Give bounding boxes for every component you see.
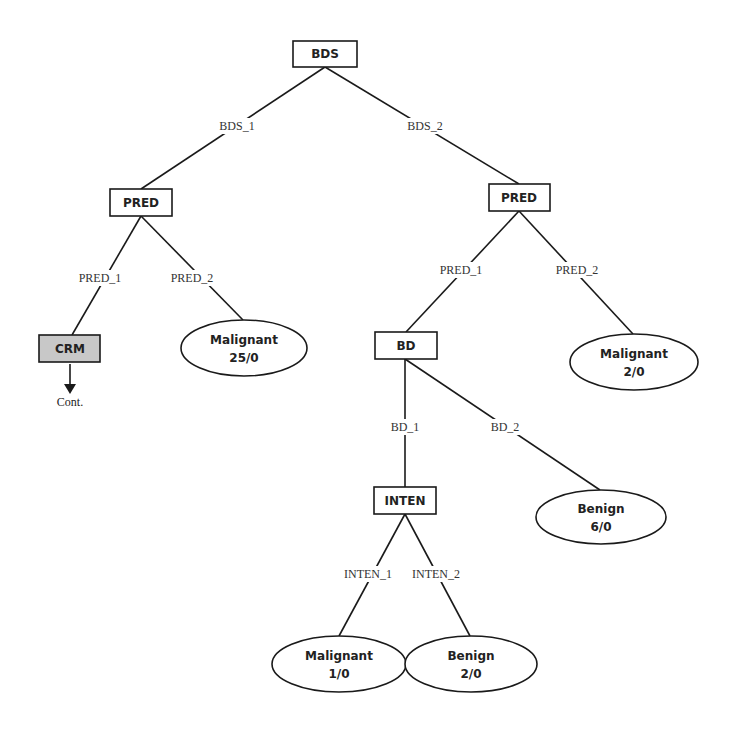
node-inten: INTEN: [374, 487, 436, 514]
arrow-down-icon: [64, 384, 76, 394]
leaf-class: Benign: [577, 502, 624, 516]
leaf-count: 2/0: [623, 365, 644, 379]
edge-label-pred-right-1: PRED_1: [440, 263, 483, 277]
leaf-benign-6: Benign 6/0: [536, 490, 666, 544]
node-label: PRED: [123, 196, 159, 210]
edge-label-bds-2: BDS_2: [407, 119, 442, 133]
node-label: PRED: [501, 191, 537, 205]
leaf-malignant-2: Malignant 2/0: [570, 334, 698, 390]
edge-label-pred-right-2: PRED_2: [556, 263, 599, 277]
leaf-count: 25/0: [229, 351, 258, 365]
leaf-count: 2/0: [460, 667, 481, 681]
edges: [72, 67, 633, 636]
edge-label-bd-2: BD_2: [491, 420, 520, 434]
node-label: BDS: [311, 47, 339, 61]
node-label: INTEN: [385, 494, 426, 508]
node-pred-right: PRED: [489, 184, 550, 211]
node-label: BD: [396, 339, 415, 353]
node-label: CRM: [55, 342, 85, 356]
node-pred-left: PRED: [110, 189, 172, 216]
edge-label-pred-left-1: PRED_1: [79, 271, 122, 285]
leaf-class: Benign: [447, 649, 494, 663]
leaf-malignant-1: Malignant 1/0: [272, 636, 406, 692]
leaf-class: Malignant: [210, 333, 278, 347]
edge-label-bds-1: BDS_1: [219, 119, 254, 133]
edge-label-inten-1: INTEN_1: [344, 567, 392, 581]
edge-pred-left-2: [141, 216, 243, 320]
node-bd: BD: [375, 332, 437, 359]
edge-label-bd-1: BD_1: [391, 420, 420, 434]
leaf-class: Malignant: [305, 649, 373, 663]
edge-label-pred-left-2: PRED_2: [171, 271, 214, 285]
continuation-label: Cont.: [57, 395, 83, 409]
node-crm: CRM: [39, 335, 100, 362]
leaf-benign-2: Benign 2/0: [405, 636, 537, 692]
leaf-class: Malignant: [600, 347, 668, 361]
leaf-count: 6/0: [590, 520, 611, 534]
continuation-arrow: Cont.: [57, 364, 83, 409]
node-bds: BDS: [293, 41, 357, 67]
decision-tree-diagram: BDS_1 BDS_2 PRED_1 PRED_2 PRED_1 PRED_2 …: [0, 0, 735, 735]
leaf-count: 1/0: [328, 667, 349, 681]
edge-label-inten-2: INTEN_2: [412, 567, 460, 581]
leaf-malignant-25: Malignant 25/0: [181, 320, 307, 376]
